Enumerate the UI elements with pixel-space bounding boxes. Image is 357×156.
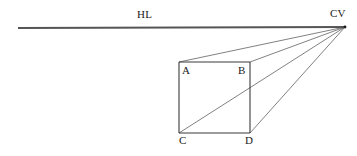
corner-label-d: D bbox=[245, 135, 253, 146]
horizon-line-label: HL bbox=[137, 9, 152, 20]
ray-d-to-cv bbox=[250, 27, 345, 133]
diagram-canvas bbox=[0, 0, 357, 156]
center-of-vision-label: CV bbox=[330, 8, 346, 19]
ray-b-to-cv bbox=[250, 27, 345, 62]
ray-a-to-cv bbox=[179, 27, 345, 62]
center-of-vision-point bbox=[344, 26, 347, 29]
ray-c-to-cv bbox=[179, 27, 345, 133]
corner-label-b: B bbox=[238, 65, 246, 76]
horizon-line bbox=[18, 27, 345, 28]
corner-label-a: A bbox=[182, 65, 190, 76]
corner-label-c: C bbox=[179, 135, 187, 146]
perspective-diagram: HL CV A B C D bbox=[0, 0, 357, 156]
